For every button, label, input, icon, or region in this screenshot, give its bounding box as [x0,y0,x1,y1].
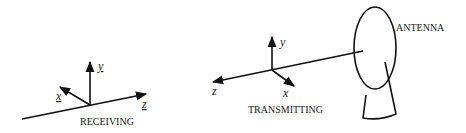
antenna-label: ANTENNA [396,22,445,33]
antenna-dish [354,7,396,89]
transmitting-z-axis [213,51,363,82]
receiving-y-label: y [97,59,104,73]
transmitting-x-label: x [282,86,289,100]
transmitting-caption: TRANSMITTING [248,104,323,115]
transmitting-z-label: z [211,84,217,98]
diagram-canvas: y x z RECEIVING y x z TRANSMITTING ANTEN… [0,0,466,133]
receiving-x-label: x [55,89,62,103]
receiving-caption: RECEIVING [80,116,134,127]
antenna-pedestal [363,62,396,119]
receiving-frame: y x z RECEIVING [22,59,147,127]
transmitting-x-axis [272,70,294,86]
antenna: ANTENNA [354,7,445,119]
transmitting-frame: y x z TRANSMITTING [211,35,363,115]
transmitting-y-label: y [279,35,286,49]
receiving-z-label: z [141,97,147,111]
receiving-x-axis [60,87,90,105]
